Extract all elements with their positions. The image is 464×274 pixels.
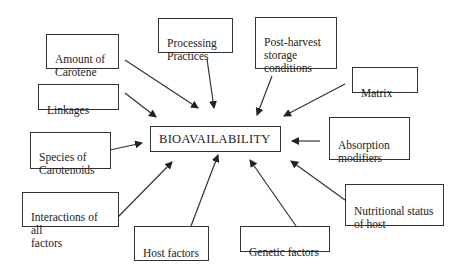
factor-nutritional-status: Nutritional status of host <box>345 184 444 226</box>
arrow-host <box>191 155 218 226</box>
factor-label: Absorption modifiers <box>338 139 390 164</box>
factor-label: Species of Carotenoids <box>39 151 95 176</box>
factor-processing-practices: Processing Practices <box>158 18 233 53</box>
factor-absorption-modifiers: Absorption modifiers <box>329 117 410 160</box>
arrow-species <box>110 143 142 150</box>
arrow-genetic <box>250 160 296 226</box>
arrow-nutritional <box>291 161 345 200</box>
factor-interactions: Interactions of all factors <box>22 192 119 227</box>
factor-label: Matrix <box>361 87 392 99</box>
factor-label: Post-harvest storage conditions <box>264 36 321 74</box>
factor-host-factors: Host factors <box>134 226 209 261</box>
factor-label: Host factors <box>143 247 199 259</box>
arrow-matrix <box>284 84 345 116</box>
arrow-interactions <box>118 162 172 217</box>
factor-amount-of-carotene: Amount of Carotene <box>46 34 119 69</box>
arrow-linkages <box>125 93 156 117</box>
arrow-post-harvest <box>257 76 272 115</box>
bioavailability-box: BIOAVAILABILITY <box>150 126 281 152</box>
factor-linkages: Linkages <box>38 84 119 110</box>
bioavailability-label: BIOAVAILABILITY <box>159 133 271 146</box>
factor-label: Linkages <box>47 104 89 116</box>
factor-label: Genetic factors <box>249 246 319 258</box>
factor-post-harvest-storage: Post-harvest storage conditions <box>255 17 337 69</box>
arrow-processing <box>207 59 214 108</box>
factor-species-of-carotenoids: Species of Carotenoids <box>30 132 111 169</box>
factor-genetic-factors: Genetic factors <box>240 226 330 252</box>
factor-matrix: Matrix <box>352 67 418 93</box>
